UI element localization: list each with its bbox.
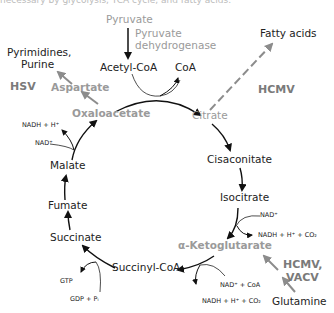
- fatty-acids-label: Fatty acids: [260, 28, 317, 40]
- isocitrate-label: Isocitrate: [220, 192, 269, 204]
- hcmv-label: HCMV: [258, 84, 295, 96]
- fatty-acids-arrow: [210, 44, 272, 110]
- cisaconitate-label: Cisaconitate: [207, 154, 272, 166]
- aspartate-arrow: [82, 92, 98, 104]
- purine-label: Purine: [21, 59, 54, 71]
- enzyme-line1: Pyruvate: [135, 28, 182, 40]
- pyrimidines-label: Pyrimidines,: [7, 47, 71, 59]
- akg-nadh: NADH + H⁺ + CO₂: [202, 298, 261, 305]
- akg-nad: NAD⁺ + CoA: [220, 282, 260, 289]
- fumarate-label: Fumate: [48, 200, 87, 212]
- hcmv-vacv-line2: VACV: [286, 272, 319, 284]
- gtp-label: GTP: [60, 278, 73, 285]
- acetyl-coa-label: Acetyl-CoA: [100, 62, 157, 74]
- citrate-label: Citrate: [192, 110, 228, 122]
- oxaloacetate-label: Oxaloacetate: [72, 108, 150, 120]
- succinyl-coa-label: Succinyl-CoA: [112, 262, 180, 274]
- pyruvate-label: Pyruvate: [106, 14, 153, 26]
- iso-nadh: NADH + H⁺ + CO₂: [258, 232, 317, 239]
- iso-nad: NAD⁺: [260, 212, 278, 219]
- succinate-label: Succinate: [50, 232, 101, 244]
- akg-label: α-Ketoglutarate: [178, 240, 272, 252]
- coa-label: CoA: [175, 62, 196, 74]
- enzyme-line2: dehydrogenase: [135, 40, 216, 52]
- glutamine-label: Glutamine: [272, 296, 327, 308]
- hsv-label: HSV: [10, 81, 36, 93]
- gdp-label: GDP + Pᵢ: [70, 296, 99, 303]
- hcmv-vacv-line1: HCMV,: [283, 259, 323, 271]
- malate-label: Malate: [50, 160, 85, 172]
- nadh-top: NADH + H⁺: [22, 122, 59, 129]
- aspartate-label: Aspartate: [51, 82, 109, 94]
- nad-top: NAD⁺: [35, 140, 53, 147]
